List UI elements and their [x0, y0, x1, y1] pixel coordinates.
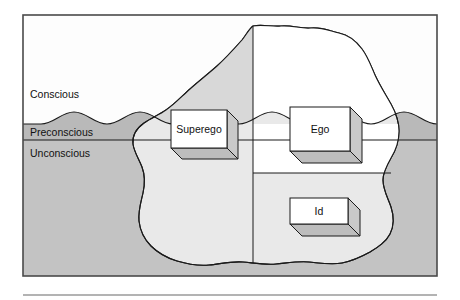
ego-label: Ego: [311, 123, 330, 135]
zone-label-unconscious: Unconscious: [30, 147, 90, 159]
structure-box-superego[interactable]: Superego: [171, 110, 238, 159]
id-label: Id: [315, 205, 324, 217]
structure-box-id[interactable]: Id: [290, 198, 360, 236]
figure-root: Conscious Preconscious Unconscious Super…: [0, 0, 460, 300]
superego-label: Superego: [176, 123, 222, 135]
ego-bottom-face: [290, 151, 362, 163]
zone-label-conscious: Conscious: [30, 88, 79, 100]
superego-bottom-face: [171, 148, 238, 159]
zone-label-preconscious: Preconscious: [30, 126, 93, 138]
id-bottom-face: [290, 224, 360, 236]
structure-box-ego[interactable]: Ego: [290, 107, 362, 163]
iceberg-diagram: Conscious Preconscious Unconscious Super…: [0, 0, 460, 300]
